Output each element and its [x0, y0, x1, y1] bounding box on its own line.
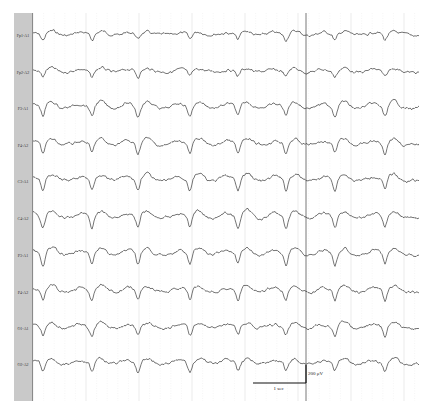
- amplitude-scale-label: 200 μV: [308, 371, 323, 376]
- channel-label: C4-A2: [14, 216, 32, 221]
- eeg-trace-o2-a2: [33, 357, 419, 373]
- eeg-trace-c3-a1: [33, 172, 419, 192]
- eeg-trace-f4-a2: [33, 137, 419, 155]
- eeg-trace-f3-a1: [33, 99, 419, 117]
- channel-label: O1-A1: [14, 326, 32, 331]
- channel-label: F3-A1: [14, 106, 32, 111]
- eeg-trace-plot: [33, 13, 419, 401]
- eeg-panel: Fp1-A1 Fp2-A2 F3-A1 F4-A2 C3-A1 C4-A2 P3…: [14, 13, 419, 401]
- channel-label: Fp1-A1: [14, 33, 32, 38]
- channel-label: O2-A2: [14, 362, 32, 367]
- eeg-trace-p4-a2: [33, 284, 419, 302]
- channel-label: F4-A2: [14, 143, 32, 148]
- channel-label: C3-A1: [14, 179, 32, 184]
- eeg-trace-fp2-a2: [33, 66, 419, 78]
- channel-label: P4-A2: [14, 290, 32, 295]
- channel-label: Fp2-A2: [14, 70, 32, 75]
- eeg-trace-fp1-a1: [33, 30, 419, 42]
- channel-label: P3-A1: [14, 253, 32, 258]
- eeg-trace-c4-a2: [33, 209, 419, 230]
- eeg-trace-p3-a1: [33, 247, 419, 267]
- channel-label-column: Fp1-A1 Fp2-A2 F3-A1 F4-A2 C3-A1 C4-A2 P3…: [14, 13, 33, 401]
- eeg-trace-o1-a1: [33, 321, 419, 338]
- time-scale-label: 1 sec: [274, 386, 284, 391]
